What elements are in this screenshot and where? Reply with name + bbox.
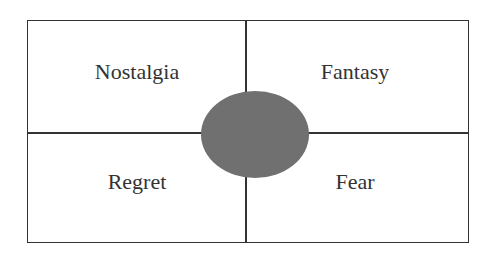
quadrant-nostalgia: Nostalgia bbox=[28, 59, 246, 85]
quadrant-fantasy: Fantasy bbox=[246, 59, 464, 85]
center-ellipse bbox=[201, 91, 309, 178]
quadrant-regret: Regret bbox=[28, 169, 246, 195]
